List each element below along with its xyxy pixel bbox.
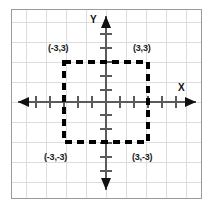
vertex-label-top-right: (3,3) [133,43,151,53]
vertex-label-top-left: (-3,3) [48,43,68,53]
vertex-label-bottom-left: (-3,-3) [44,152,67,162]
x-axis-label: X [178,82,185,93]
arrow-right-icon [185,97,196,107]
plot-canvas [0,0,214,208]
x-axis [18,97,196,107]
arrow-left-icon [18,97,29,107]
coordinate-plane-figure: (-3,3) (3,3) (-3,-3) (3,-3) Y X [0,0,214,208]
y-axis-label: Y [90,14,97,25]
vertex-label-bottom-right: (3,-3) [132,152,152,162]
arrow-down-icon [101,178,111,190]
